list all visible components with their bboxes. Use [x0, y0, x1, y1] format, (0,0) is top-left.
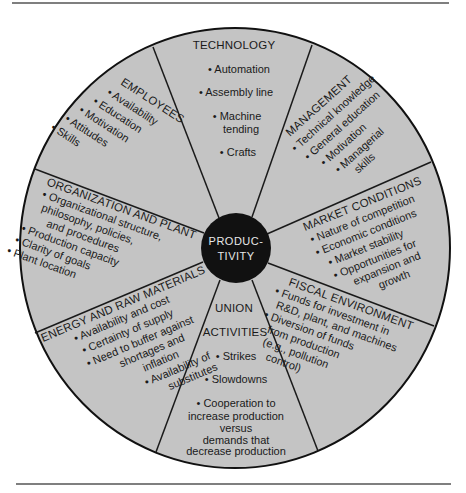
list-item-cont: versus	[220, 422, 253, 434]
list-item: • Slowdowns	[205, 373, 268, 385]
list-item: • Automation	[208, 63, 270, 75]
productivity-wheel-diagram: PRODUC- TIVITY TECHNOLOGY • Automation •…	[0, 0, 466, 493]
list-item-cont: decrease production	[186, 445, 286, 457]
list-item: • Machine	[213, 110, 262, 122]
segment-title-line1: UNION	[215, 302, 253, 314]
center-hub	[201, 213, 271, 283]
list-item-cont: increase production	[188, 410, 284, 422]
segment-title: TECHNOLOGY	[193, 39, 276, 51]
list-item-cont: tending	[223, 123, 259, 135]
center-label-line2: TIVITY	[217, 250, 254, 262]
list-item: • Assembly line	[199, 86, 273, 98]
list-item: • Strikes	[216, 350, 257, 362]
segment-title-line2: ACTIVITIES	[203, 326, 268, 338]
center-label-line1: PRODUC-	[209, 235, 264, 247]
list-item: • Crafts	[220, 146, 257, 158]
list-item: • Cooperation to	[196, 397, 275, 409]
